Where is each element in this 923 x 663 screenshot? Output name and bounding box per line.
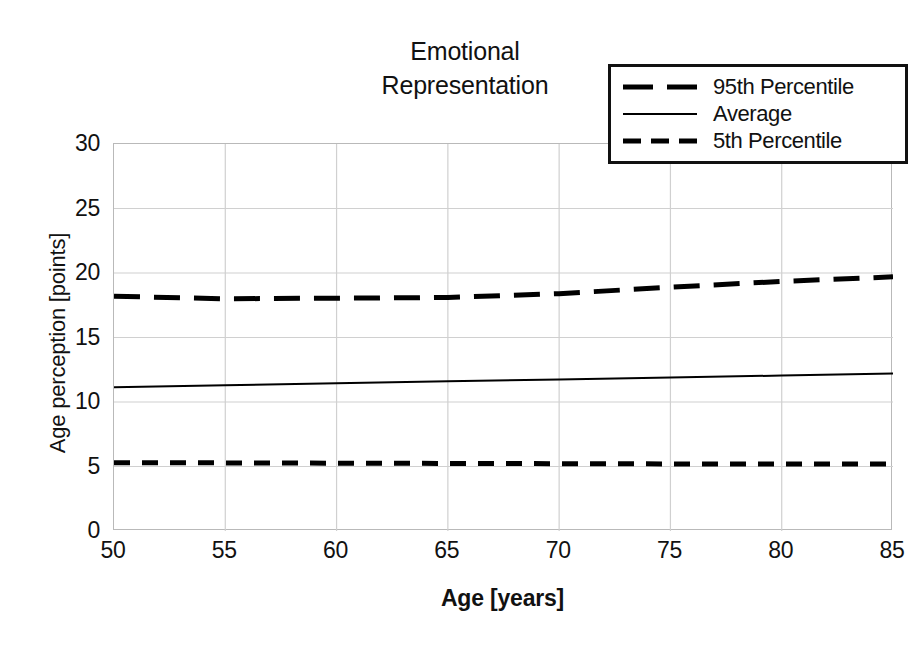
y-tick-label: 15 [40, 323, 100, 350]
y-tick-label: 10 [40, 388, 100, 415]
legend-item[interactable]: Average [621, 100, 895, 127]
legend-item-label: 95th Percentile [713, 74, 854, 100]
plot-canvas [114, 144, 893, 531]
x-tick-label: 70 [523, 537, 593, 564]
y-tick-label: 25 [40, 194, 100, 221]
legend-item[interactable]: 5th Percentile [621, 127, 895, 154]
series-line-95th-percentile [114, 277, 893, 299]
legend-item-label: 5th Percentile [713, 128, 842, 154]
x-tick-label: 55 [189, 537, 259, 564]
chart-figure: Emotional Representation Age perception … [0, 0, 923, 663]
series-line-average [114, 374, 893, 388]
x-axis-label: Age [years] [113, 585, 892, 612]
x-tick-label: 65 [412, 537, 482, 564]
chart-title: Emotional Representation [305, 34, 625, 102]
long-dash-line-icon [621, 77, 699, 97]
x-tick-label: 85 [857, 537, 923, 564]
x-tick-label: 50 [78, 537, 148, 564]
x-axis-tick-labels: 5055606570758085 [113, 537, 892, 571]
x-tick-label: 80 [746, 537, 816, 564]
plot-area [113, 143, 892, 530]
legend-item-label: Average [713, 101, 792, 127]
solid-line-icon [621, 104, 699, 124]
legend-item[interactable]: 95th Percentile [621, 73, 895, 100]
short-dash-line-icon [621, 131, 699, 151]
y-tick-label: 5 [40, 452, 100, 479]
series-line-5th-percentile [114, 463, 893, 464]
y-tick-label: 30 [40, 130, 100, 157]
y-tick-label: 20 [40, 259, 100, 286]
x-tick-label: 60 [301, 537, 371, 564]
chart-legend: 95th PercentileAverage5th Percentile [608, 64, 908, 164]
x-tick-label: 75 [634, 537, 704, 564]
